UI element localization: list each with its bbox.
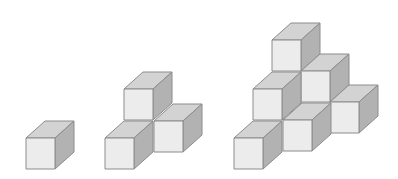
cube-front-face — [105, 138, 134, 169]
cube-front-face — [154, 121, 183, 152]
figure-2-four-cubes — [105, 72, 202, 169]
cube-front-face — [330, 102, 359, 133]
cube-front-face — [124, 89, 153, 120]
figure-3-ten-cubes — [234, 23, 378, 169]
cube — [105, 121, 153, 169]
cube-front-face — [272, 40, 301, 71]
cube-front-face — [301, 71, 330, 102]
cube-front-face — [283, 120, 312, 151]
cube-front-face — [234, 138, 263, 169]
cube — [26, 121, 74, 169]
cube-diagram — [0, 0, 398, 179]
cube — [234, 121, 282, 169]
cube-front-face — [253, 89, 282, 120]
cube-front-face — [26, 138, 55, 169]
figure-1-single-cube — [26, 121, 74, 169]
